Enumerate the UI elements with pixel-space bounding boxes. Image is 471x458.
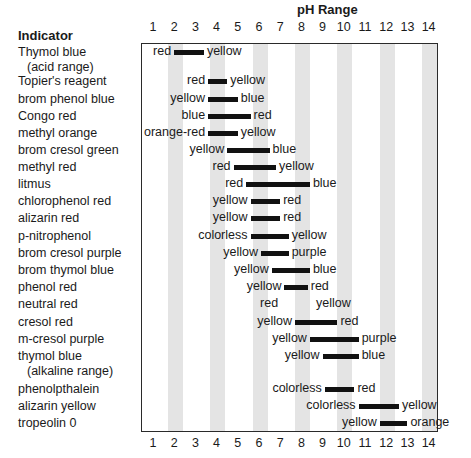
x-tick-label-bottom: 10 [337,436,351,450]
indicator-subtitle: (alkaline range) [27,364,113,378]
chart-title: pH Range [297,2,358,17]
high-ph-color-label: yellow [239,125,276,139]
x-tick-label-bottom: 3 [192,436,199,450]
high-ph-color-label: yellow [290,228,327,242]
x-tick-label-top: 1 [150,20,157,34]
transition-range-bar [380,421,408,426]
transition-range-bar [227,148,269,153]
indicator-name: litmus [18,177,51,191]
x-tick-label-bottom: 13 [400,436,414,450]
indicator-name: Congo red [18,109,76,123]
x-tick-label-bottom: 12 [379,436,393,450]
x-tick-label-bottom: 11 [359,436,372,450]
transition-range-bar [359,404,399,409]
high-ph-color-label: red [338,314,358,328]
indicator-name: brom cresol purple [18,246,122,260]
low-ph-color-label: yellow [272,331,309,345]
high-ph-color-label: red [281,210,301,224]
indicator-column-header: Indicator [18,28,73,43]
shaded-ph-column [380,44,395,431]
indicator-name: neutral red [18,297,78,311]
x-tick-label-bottom: 2 [171,436,178,450]
low-ph-color-label: yellow [223,245,260,259]
x-tick-label-top: 6 [256,20,263,34]
x-tick-label-bottom: 9 [319,436,326,450]
indicator-name: methyl orange [18,126,97,140]
low-ph-color-label: red [187,73,207,87]
transition-range-bar [174,50,204,55]
low-ph-color-label: red [153,44,173,58]
high-ph-color-label: blue [239,91,265,105]
x-tick-label-top: 7 [277,20,284,34]
indicator-name: brom phenol blue [18,92,115,106]
x-tick-label-top: 14 [422,20,436,34]
transition-range-bar [208,114,250,119]
indicator-name: p-nitrophenol [18,229,91,243]
transition-range-bar [272,268,310,273]
low-ph-color-label: yellow [342,415,379,429]
high-ph-color-label: yellow [314,296,351,310]
low-ph-color-label: yellow [247,279,284,293]
x-tick-label-top: 3 [192,20,199,34]
transition-range-bar [295,320,337,325]
low-ph-color-label: red [212,159,232,173]
transition-range-bar [234,165,276,170]
x-tick-label-top: 12 [379,20,393,34]
high-ph-color-label: blue [311,262,337,276]
transition-range-bar [251,234,289,239]
x-tick-label-bottom: 4 [213,436,220,450]
indicator-name: thymol blue [18,349,82,363]
high-ph-color-label: purple [290,245,327,259]
low-ph-color-label: orange-red [144,125,207,139]
low-ph-color-label: colorless [306,398,357,412]
indicator-name: Thymol blue [18,45,86,59]
high-ph-color-label: purple [360,331,397,345]
x-tick-label-top: 11 [359,20,372,34]
transition-range-bar [310,337,359,342]
indicator-name: brom thymol blue [18,263,114,277]
indicator-name: methyl red [18,160,76,174]
low-ph-color-label: yellow [213,193,250,207]
x-tick-label-top: 10 [337,20,351,34]
x-tick-label-bottom: 7 [277,436,284,450]
high-ph-color-label: yellow [205,44,242,58]
high-ph-color-label: yellow [277,159,314,173]
transition-range-bar [284,285,307,290]
transition-range-bar [208,131,238,136]
high-ph-color-label: orange [408,415,449,429]
high-ph-color-label: red [252,108,272,122]
low-ph-color-label: yellow [213,210,250,224]
x-tick-label-top: 9 [319,20,326,34]
transition-range-bar [246,182,310,187]
transition-range-bar [325,387,355,392]
indicator-name: cresol red [18,315,73,329]
indicator-name: alizarin red [18,211,79,225]
x-tick-label-top: 5 [234,20,241,34]
x-tick-label-top: 8 [298,20,305,34]
low-ph-color-label: red [225,176,245,190]
x-tick-label-top: 13 [400,20,414,34]
low-ph-color-label: yellow [234,262,271,276]
x-tick-label-top: 2 [171,20,178,34]
indicator-name: brom cresol green [18,143,119,157]
low-ph-color-label: yellow [285,348,322,362]
high-ph-color-label: red [281,193,301,207]
high-ph-color-label: yellow [400,398,437,412]
shaded-ph-column [337,44,352,431]
low-ph-color-label: red [260,296,280,310]
transition-range-bar [251,199,281,204]
low-ph-color-label: colorless [198,228,249,242]
indicator-subtitle: (acid range) [27,60,94,74]
shaded-ph-column [422,44,437,431]
low-ph-color-label: yellow [257,314,294,328]
x-tick-label-bottom: 1 [150,436,157,450]
transition-range-bar [261,251,289,256]
low-ph-color-label: yellow [170,91,207,105]
high-ph-color-label: blue [271,142,297,156]
low-ph-color-label: blue [181,108,207,122]
indicator-name: phenol red [18,280,77,294]
high-ph-color-label: blue [311,176,337,190]
x-tick-label-bottom: 6 [256,436,263,450]
low-ph-color-label: yellow [189,142,226,156]
transition-range-bar [323,354,359,359]
